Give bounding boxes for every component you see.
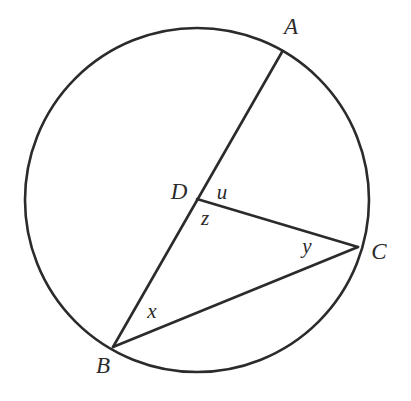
angle-label-z: z [200,206,209,230]
vertex-label-b: B [96,353,110,378]
vertex-label-c: C [371,239,387,264]
geometry-figure: A B C D u z x y [0,0,411,401]
segment-dc [197,199,358,247]
vertex-label-d: D [170,179,188,204]
segment-bc [113,247,358,347]
angle-label-u: u [217,180,228,204]
angle-label-x: x [146,299,157,323]
geometry-canvas: A B C D u z x y [0,0,411,401]
vertex-label-a: A [282,14,299,39]
angle-label-y: y [300,234,312,258]
